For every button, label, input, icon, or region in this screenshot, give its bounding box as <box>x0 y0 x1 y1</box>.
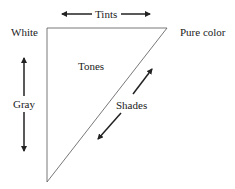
pure-color-label: Pure color <box>180 26 226 38</box>
shades-arrow-down <box>98 113 121 139</box>
tones-label: Tones <box>78 60 104 72</box>
shades-label: Shades <box>116 99 147 111</box>
gray-label: Gray <box>13 98 35 110</box>
color-triangle <box>47 28 167 182</box>
tints-label: Tints <box>95 8 117 20</box>
white-label: White <box>11 26 38 38</box>
shades-arrow-up <box>133 69 152 94</box>
color-triangle-diagram: Tints White Pure color Tones Gray Shades <box>0 0 235 189</box>
